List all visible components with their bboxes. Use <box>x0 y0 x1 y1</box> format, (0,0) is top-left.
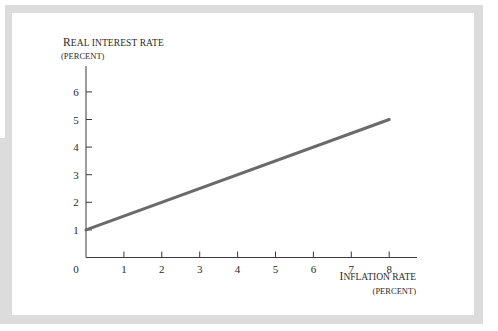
series-line <box>86 120 389 230</box>
x-tick-label: 5 <box>273 263 279 275</box>
y-axis-title-rest: EAL INTEREST RATE <box>71 38 164 48</box>
x-axis-unit: (PERCENT) <box>373 286 416 296</box>
y-tick-label: 1 <box>73 224 79 236</box>
x-axis-title: INFLATION RATE <box>340 270 416 282</box>
x-tick-label: 3 <box>197 263 203 275</box>
y-axis-title: REAL INTEREST RATE <box>63 36 164 48</box>
chart-plot: 123456 123456780 <box>0 0 498 331</box>
y-tick-label: 3 <box>73 169 79 181</box>
x-tick-label: 2 <box>159 263 165 275</box>
y-axis-unit: (PERCENT) <box>61 51 104 61</box>
x-tick-label: 4 <box>235 263 241 275</box>
y-tick-label: 5 <box>73 114 79 126</box>
x-tick-label: 1 <box>121 263 127 275</box>
y-axis-title-cap: R <box>63 36 71 48</box>
y-tick-label: 2 <box>73 196 79 208</box>
y-tick-label: 6 <box>73 86 79 98</box>
x-axis-title-rest: NFLATION RATE <box>343 272 416 282</box>
y-tick-label: 4 <box>73 141 79 153</box>
y-ticks: 123456 <box>73 86 92 236</box>
origin-label: 0 <box>73 263 79 275</box>
x-tick-label: 6 <box>311 263 317 275</box>
